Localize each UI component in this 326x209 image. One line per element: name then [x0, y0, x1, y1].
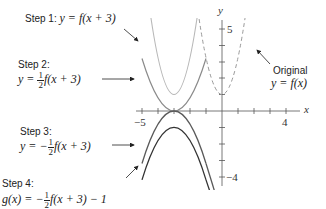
- step2-equation: y = 12f(x + 3): [18, 71, 81, 90]
- step2-title: Step 2:: [18, 60, 50, 70]
- y-axis: [219, 20, 225, 186]
- step3-title: Step 3:: [20, 127, 52, 137]
- graph-canvas: [0, 0, 326, 209]
- x-axis: [136, 108, 300, 114]
- curve-step2: [142, 59, 206, 112]
- curve-step3: [142, 111, 206, 164]
- y-axis-label: y: [218, 4, 223, 16]
- x-tick-min: −5: [134, 116, 146, 128]
- x-tick-max: 4: [282, 116, 288, 128]
- original-equation: y = f(x): [271, 77, 307, 89]
- step4-equation: g(x) = −12f(x + 3) − 1: [2, 191, 107, 209]
- arrow-step1: [124, 29, 138, 41]
- arrow-original: [257, 50, 270, 64]
- y-tick-max: 5: [227, 23, 233, 35]
- x-axis-label: x: [304, 103, 309, 115]
- original-title: Original: [273, 66, 307, 76]
- step3-equation: y = −12f(x + 3): [20, 138, 91, 157]
- step1-label: Step 1: y = f(x + 3): [25, 12, 116, 24]
- y-tick-min: −4: [226, 171, 238, 183]
- curve-step1: [146, 0, 201, 95]
- step4-title: Step 4:: [2, 179, 34, 189]
- arrow-step4: [126, 166, 138, 178]
